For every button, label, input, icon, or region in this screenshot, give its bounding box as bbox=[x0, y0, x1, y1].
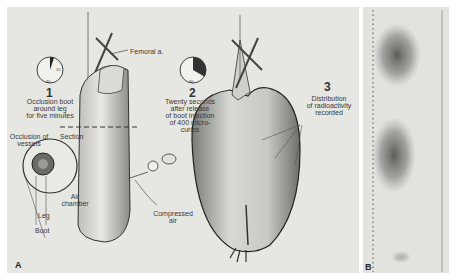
panel-a-letter: A bbox=[15, 260, 22, 270]
label-leg: Leg bbox=[38, 212, 50, 219]
panel-b-letter: B bbox=[365, 262, 372, 272]
label-femoral: Femoral a. bbox=[130, 48, 163, 55]
label-occlusion-vessels: Occlusion of vessels bbox=[4, 133, 54, 147]
step-1-caption: Occlusion boot around leg for five minut… bbox=[10, 98, 90, 119]
label-compressed-air: Compressed air bbox=[148, 210, 198, 224]
label-air-chamber: Air chamber bbox=[58, 193, 92, 207]
step-3-caption: Distribution of radioactivity recorded bbox=[298, 95, 360, 116]
label-section: Section bbox=[60, 133, 83, 140]
illustration-drawing bbox=[0, 0, 456, 280]
clock-1-label-30: 30 bbox=[46, 78, 50, 85]
clock-2-label-30: 30 bbox=[189, 78, 193, 85]
cross-section bbox=[23, 139, 77, 193]
step-3-number: 3 bbox=[324, 80, 331, 94]
label-boot: Boot bbox=[35, 227, 49, 234]
clock-1-label-15: 15 bbox=[56, 66, 60, 73]
step-2-caption: Twenty seconds after release of boot inj… bbox=[140, 98, 240, 133]
